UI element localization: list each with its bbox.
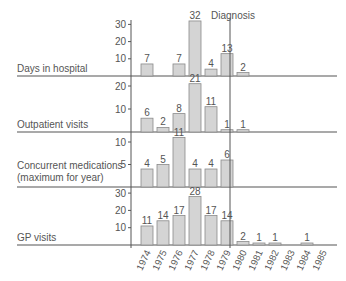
bar-1979 <box>221 221 233 245</box>
panel-label: GP visits <box>17 232 56 243</box>
chart-panels: Days in hospital10203077324132Outpatient… <box>17 10 337 245</box>
bar-value-label: 1 <box>272 232 278 243</box>
bar-1974 <box>141 118 153 132</box>
bar-1974 <box>141 226 153 245</box>
bar-value-label: 7 <box>144 53 150 64</box>
bar-1984 <box>301 243 313 245</box>
stacked-bar-chart: Days in hospital10203077324132Outpatient… <box>0 0 346 281</box>
bar-value-label: 21 <box>189 73 201 84</box>
bar-value-label: 28 <box>189 186 201 197</box>
bar-1975 <box>157 165 169 188</box>
bar-1981 <box>253 243 265 245</box>
bar-value-label: 13 <box>221 43 233 54</box>
bar-value-label: 6 <box>224 149 230 160</box>
y-tick-label: 20 <box>115 36 127 47</box>
bar-1977 <box>189 169 201 187</box>
bar-1978 <box>205 69 217 76</box>
bar-value-label: 1 <box>256 232 262 243</box>
x-axis-year-labels: 1974197519761977197819791980198119821983… <box>134 248 329 272</box>
y-tick-label: 20 <box>115 81 127 92</box>
bar-1976 <box>173 216 185 245</box>
bar-value-label: 4 <box>192 158 198 169</box>
bar-value-label: 6 <box>144 107 150 118</box>
bar-1978 <box>205 216 217 245</box>
y-tick-label: 30 <box>115 19 127 30</box>
bar-1977 <box>189 84 201 132</box>
bar-value-label: 7 <box>176 53 182 64</box>
bar-1980 <box>237 130 249 132</box>
bar-value-label: 2 <box>240 231 246 242</box>
bar-1979 <box>221 130 233 132</box>
bar-1977 <box>189 21 201 76</box>
panel-label: Concurrent medications <box>17 160 123 171</box>
bar-1979 <box>221 54 233 76</box>
bar-value-label: 14 <box>157 210 169 221</box>
bar-1974 <box>141 169 153 187</box>
y-tick-label: 10 <box>115 137 127 148</box>
y-tick-label: 10 <box>115 53 127 64</box>
bar-1975 <box>157 127 169 132</box>
bar-value-label: 4 <box>144 158 150 169</box>
bar-value-label: 14 <box>221 210 233 221</box>
bar-1976 <box>173 64 185 76</box>
bar-value-label: 11 <box>206 96 217 107</box>
year-label: 1985 <box>310 248 329 272</box>
bar-1976 <box>173 138 185 188</box>
bar-1977 <box>189 197 201 245</box>
panel-days-in-hospital: Days in hospital10203077324132 <box>17 10 337 76</box>
bar-value-label: 4 <box>208 158 214 169</box>
bar-value-label: 1 <box>240 119 246 130</box>
panel-outpatient-visits: Outpatient visits1020628211111 <box>17 73 337 132</box>
bar-value-label: 2 <box>160 116 166 127</box>
bar-value-label: 2 <box>240 62 246 73</box>
bar-1974 <box>141 64 153 76</box>
bar-value-label: 4 <box>208 58 214 69</box>
bar-value-label: 1 <box>224 119 230 130</box>
diagnosis-label: Diagnosis <box>211 10 255 21</box>
diagnosis-marker: Diagnosis <box>211 10 255 248</box>
bar-1980 <box>237 73 249 76</box>
bar-1980 <box>237 242 249 245</box>
y-tick-label: 30 <box>115 188 127 199</box>
bar-1975 <box>157 221 169 245</box>
bar-value-label: 1 <box>304 232 310 243</box>
bar-value-label: 32 <box>189 10 201 21</box>
y-tick-label: 5 <box>120 159 126 170</box>
bar-value-label: 17 <box>205 205 217 216</box>
panel-concurrent-medications-maximum-for-year: Concurrent medications(maximum for year)… <box>17 127 337 188</box>
bar-value-label: 11 <box>174 127 185 138</box>
y-tick-label: 10 <box>115 104 127 115</box>
bar-value-label: 17 <box>173 205 185 216</box>
panel-gp-visits: GP visits1020301114172817142111 <box>17 186 337 245</box>
bar-value-label: 11 <box>142 215 153 226</box>
panel-label: Outpatient visits <box>17 119 88 130</box>
panel-label: Days in hospital <box>17 63 88 74</box>
bar-1978 <box>205 169 217 187</box>
bar-value-label: 5 <box>160 154 166 165</box>
y-tick-label: 10 <box>115 222 127 233</box>
bar-value-label: 8 <box>176 103 182 114</box>
bar-1982 <box>269 243 281 245</box>
panel-label: (maximum for year) <box>17 172 104 183</box>
y-tick-label: 20 <box>115 205 127 216</box>
bar-1978 <box>205 107 217 132</box>
bar-1979 <box>221 160 233 187</box>
